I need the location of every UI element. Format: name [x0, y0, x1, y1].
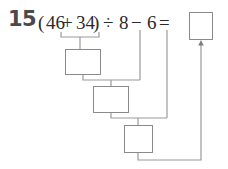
work-box-step-1[interactable]	[65, 49, 101, 75]
worksheet-problem: 15 ( 46 + 34 ) ÷ 8 − 6 =	[0, 0, 228, 169]
expression-operator-plus: +	[62, 13, 73, 32]
expression-open-paren: (	[38, 13, 44, 32]
expression-close-paren: )	[93, 13, 99, 32]
expression-equals-sign: =	[159, 13, 170, 32]
expression-operand-c: 8	[119, 13, 129, 32]
work-box-step-3[interactable]	[124, 125, 153, 153]
problem-number: 15	[8, 9, 36, 30]
answer-box[interactable]	[189, 12, 213, 40]
expression-operator-divide: ÷	[103, 13, 113, 32]
work-box-step-2[interactable]	[93, 86, 129, 113]
expression-operator-minus: −	[131, 13, 142, 32]
arrow-up-icon	[198, 40, 204, 45]
expression-operand-d: 6	[147, 13, 157, 32]
